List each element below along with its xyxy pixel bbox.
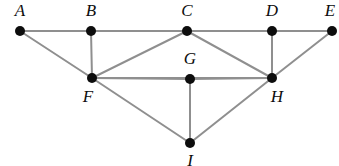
graph-canvas: ABCDEFGHI [0,0,339,166]
node-label-d: D [265,1,279,20]
graph-node-h [267,73,277,83]
node-labels-group: ABCDEFGHI [14,1,336,166]
graph-edge-h-i [190,78,272,143]
graph-node-c [182,26,192,36]
graph-edge-c-f [92,31,187,78]
node-label-a: A [14,1,26,20]
graph-edge-e-h [272,31,332,78]
node-label-f: F [82,87,94,106]
graph-node-a [15,26,25,36]
nodes-group [15,26,337,148]
node-label-b: B [86,1,97,20]
node-label-h: H [270,87,285,106]
graph-edge-a-f [20,31,92,78]
graph-diagram: ABCDEFGHI [0,0,339,166]
graph-node-g [185,74,195,84]
graph-edge-b-f [91,31,92,78]
graph-node-i [185,138,195,148]
node-label-e: E [324,1,336,20]
graph-edge-f-i [92,78,190,143]
node-label-c: C [181,1,193,20]
graph-node-b [86,26,96,36]
graph-node-f [87,73,97,83]
edges-group [20,31,332,143]
graph-node-e [327,26,337,36]
graph-edge-c-h [187,31,272,78]
node-label-i: I [186,151,194,166]
node-label-g: G [184,49,196,68]
graph-node-d [267,26,277,36]
